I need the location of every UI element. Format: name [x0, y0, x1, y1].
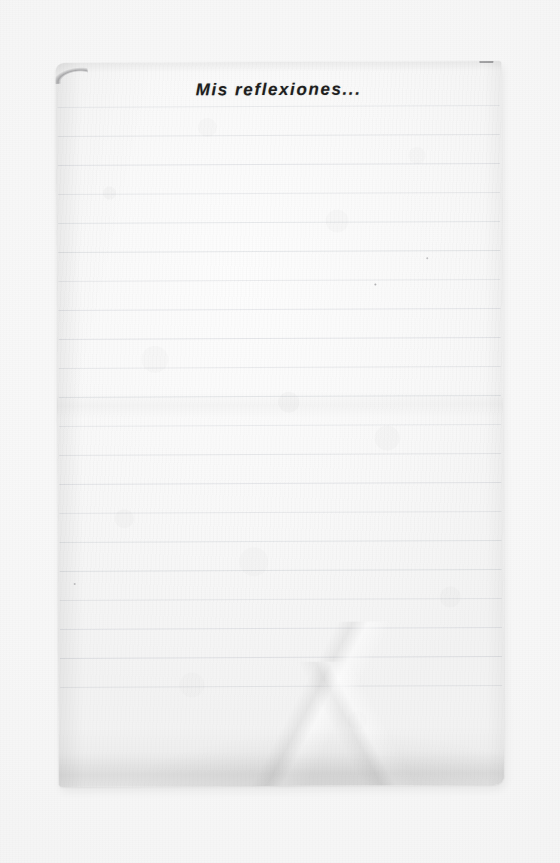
- rule-line: [59, 482, 501, 485]
- rule-line: [58, 192, 500, 195]
- crease-diagonal-left: [158, 621, 459, 787]
- right-edge-shading: [483, 61, 504, 785]
- rule-line: [60, 656, 502, 659]
- rule-line: [59, 337, 501, 340]
- rule-line: [58, 250, 500, 253]
- paper-grain-texture: [55, 61, 504, 787]
- rule-line: [59, 366, 501, 369]
- rule-line: [59, 395, 501, 398]
- rule-line: [60, 627, 502, 630]
- crease-horizontal-mid: [57, 391, 503, 419]
- crease-diagonal-right: [208, 661, 499, 787]
- rule-line: [60, 540, 502, 543]
- rule-line: [58, 163, 500, 166]
- rule-line: [58, 279, 500, 282]
- paper-sheet: Mis reflexiones...: [55, 61, 504, 787]
- top-edge-shading: [55, 61, 501, 73]
- rule-line: [59, 308, 501, 311]
- bottom-edge-curl-shadow: [58, 725, 504, 787]
- dust-speck: [426, 257, 428, 259]
- crease-horizontal-lower: [58, 751, 504, 787]
- rule-line: [59, 424, 501, 427]
- rule-line: [60, 598, 502, 601]
- dust-speck: [374, 284, 376, 286]
- rule-line: [58, 134, 500, 137]
- rule-line: [60, 685, 502, 688]
- dust-speck: [74, 583, 76, 585]
- rule-line: [58, 105, 500, 108]
- left-edge-shading: [55, 63, 84, 787]
- scanned-page-canvas: Mis reflexiones...: [0, 0, 560, 863]
- ruled-lines-group: [56, 105, 505, 732]
- rule-line: [59, 453, 501, 456]
- rule-line: [59, 511, 501, 514]
- top-right-corner-nick: [479, 61, 493, 63]
- page-title: Mis reflexiones...: [56, 79, 502, 101]
- rule-line: [60, 569, 502, 572]
- rule-line: [58, 221, 500, 224]
